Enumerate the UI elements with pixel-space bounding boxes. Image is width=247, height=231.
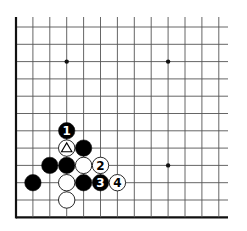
star-point-icon bbox=[166, 59, 170, 63]
stone-move-number: 2 bbox=[96, 159, 104, 173]
white-stone-2: 2 bbox=[92, 157, 108, 173]
white-stone-triangle bbox=[58, 140, 74, 156]
black-stone bbox=[75, 140, 91, 156]
black-stone bbox=[58, 157, 74, 173]
white-stone bbox=[58, 175, 74, 191]
black-stone bbox=[42, 157, 58, 173]
white-stone bbox=[75, 157, 91, 173]
star-point-icon bbox=[166, 163, 170, 167]
stone-move-number: 3 bbox=[96, 176, 104, 190]
black-stone bbox=[75, 175, 91, 191]
stone-move-number: 1 bbox=[63, 124, 71, 138]
stone-icon bbox=[25, 175, 41, 191]
stone-icon bbox=[58, 192, 74, 208]
black-stone-3: 3 bbox=[92, 175, 108, 191]
white-stone bbox=[58, 192, 74, 208]
white-stone-4: 4 bbox=[109, 175, 125, 191]
black-stone bbox=[25, 175, 41, 191]
stone-icon bbox=[58, 175, 74, 191]
black-stone-1: 1 bbox=[58, 123, 74, 139]
stone-icon bbox=[75, 157, 91, 173]
stone-icon bbox=[42, 157, 58, 173]
stone-move-number: 4 bbox=[113, 176, 121, 190]
go-board: 1234 bbox=[0, 0, 247, 231]
stone-icon bbox=[75, 175, 91, 191]
stone-icon bbox=[75, 140, 91, 156]
stone-icon bbox=[58, 157, 74, 173]
star-point-icon bbox=[65, 59, 69, 63]
